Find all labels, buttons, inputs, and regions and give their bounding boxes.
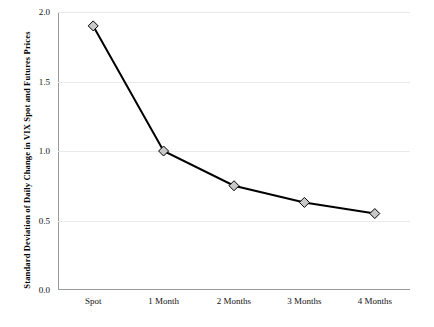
x-tick-label: 1 Month	[124, 296, 204, 306]
plot-area: 0.00.51.01.52.0	[58, 12, 410, 290]
y-tick-label: 0.0	[4, 285, 50, 295]
data-point-marker	[88, 21, 98, 31]
y-tick-label: 1.5	[4, 77, 50, 87]
x-tick-label: 3 Months	[264, 296, 344, 306]
x-tick-label: Spot	[53, 296, 133, 306]
data-point-marker	[229, 181, 239, 191]
y-tick-label: 0.5	[4, 216, 50, 226]
chart-container: Standard Deviation of Daily Change in VI…	[0, 0, 434, 327]
data-point-marker	[159, 146, 169, 156]
x-tick-label: 4 Months	[335, 296, 415, 306]
data-point-marker	[299, 197, 309, 207]
series-line	[58, 12, 410, 290]
y-tick-label: 2.0	[4, 7, 50, 17]
y-tick-label: 1.0	[4, 146, 50, 156]
y-axis-title: Standard Deviation of Daily Change in VI…	[22, 10, 38, 310]
data-point-marker	[370, 209, 380, 219]
x-tick-label: 2 Months	[194, 296, 274, 306]
